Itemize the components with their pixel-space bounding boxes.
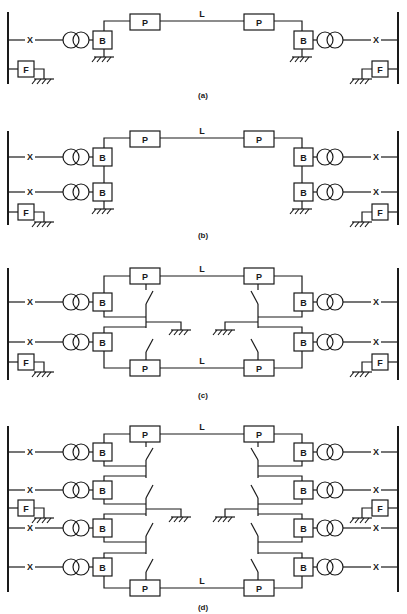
bridge-b: B — [93, 558, 112, 576]
breaker-x: X — [27, 152, 33, 162]
pole-p-label: P — [256, 430, 262, 440]
filter-f-label: F — [23, 358, 29, 368]
breaker-x: X — [373, 523, 379, 533]
bridge-b: B — [93, 183, 112, 201]
breaker-x: X — [27, 187, 33, 197]
line-l: L — [199, 422, 205, 432]
caption-d: (d) — [198, 603, 209, 612]
filter-branch: F — [350, 204, 398, 227]
pole-p: P — [244, 268, 274, 284]
bridge-b: B — [294, 558, 313, 576]
bridge-b: B — [93, 481, 112, 499]
breaker-x: X — [27, 447, 33, 457]
converter-schematic-figure: XBFXBFPLP(a)XBXBFXBXBFPLP(b)XBXBFXBXBFPP… — [0, 0, 407, 614]
two-winding-transformer-icon — [63, 334, 89, 350]
breaker-x: X — [373, 297, 379, 307]
two-winding-transformer-icon — [317, 334, 343, 350]
bridge-b: B — [93, 333, 112, 351]
breaker-x: X — [27, 562, 33, 572]
bridge-b: B — [294, 443, 313, 461]
bridge-b: B — [294, 148, 313, 166]
converter-branch: XB — [8, 481, 112, 499]
filter-branch: F — [350, 354, 398, 377]
bridge-b: B — [93, 519, 112, 537]
breaker-x: X — [373, 152, 379, 162]
two-winding-transformer-icon — [63, 444, 89, 460]
left-station: XBF — [8, 12, 112, 84]
filter-branch: F — [8, 204, 54, 227]
ground-icon — [350, 518, 372, 523]
bridge-b-label: B — [300, 298, 307, 308]
two-winding-transformer-icon — [63, 482, 89, 498]
disconnect-switch-icon — [251, 448, 258, 460]
converter-branch: XB — [8, 443, 112, 461]
bridge-b-label: B — [300, 524, 307, 534]
bridge-b-label: B — [99, 524, 106, 534]
filter-f: F — [372, 354, 388, 370]
line-l: L — [199, 576, 205, 586]
ground-icon — [32, 79, 54, 84]
ground-icon — [350, 372, 372, 377]
bridge-b: B — [294, 519, 313, 537]
bridge-b: B — [93, 443, 112, 461]
filter-f-label: F — [377, 504, 383, 514]
converter-branch: XB — [8, 333, 112, 351]
pole-p: P — [244, 426, 274, 442]
caption-b: (b) — [198, 231, 209, 240]
disconnect-switch-icon — [146, 339, 153, 352]
right-station: XBXBF — [294, 268, 398, 380]
pole-p: P — [130, 14, 160, 30]
breaker-x: X — [373, 337, 379, 347]
converter-branch: XB — [294, 148, 398, 166]
two-winding-transformer-icon — [63, 294, 89, 310]
bridge-b-label: B — [99, 153, 106, 163]
converter-branch: XB — [294, 558, 398, 576]
ground-icon — [92, 57, 114, 62]
pole-p-label: P — [142, 272, 148, 282]
two-winding-transformer-icon — [63, 184, 89, 200]
bridge-b-label: B — [99, 486, 106, 496]
bridge-b: B — [294, 481, 313, 499]
converter-branch: XB — [294, 443, 398, 461]
ground-icon — [169, 330, 191, 335]
filter-f: F — [372, 204, 388, 220]
panel-a: XBFXBFPLP(a) — [8, 9, 398, 100]
pole-p: P — [244, 131, 274, 147]
converter-branch: XB — [294, 519, 398, 537]
disconnect-switch-icon — [146, 485, 153, 498]
pole-p-label: P — [256, 364, 262, 374]
filter-branch: F — [8, 500, 54, 523]
two-winding-transformer-icon — [317, 559, 343, 575]
filter-f-label: F — [23, 65, 29, 75]
bridge-b-label: B — [99, 298, 106, 308]
filter-f: F — [372, 500, 388, 516]
two-winding-transformer-icon — [63, 149, 89, 165]
bridge-b: B — [294, 333, 313, 351]
pole-p-label: P — [142, 135, 148, 145]
disconnect-switch-icon — [251, 559, 258, 572]
disconnect-switch-icon — [146, 448, 153, 460]
bridge-b-label: B — [300, 338, 307, 348]
two-winding-transformer-icon — [317, 444, 343, 460]
breaker-x: X — [27, 485, 33, 495]
ground-icon — [350, 79, 372, 84]
pole-p: P — [244, 360, 274, 376]
two-winding-transformer-icon — [317, 149, 343, 165]
filter-f: F — [372, 61, 388, 77]
bridge-b-label: B — [300, 448, 307, 458]
line-l: L — [199, 356, 205, 366]
pole-p: P — [130, 360, 160, 376]
breaker-x: X — [373, 562, 379, 572]
disconnect-switch-icon — [146, 291, 153, 304]
converter-branch: XB — [8, 558, 112, 576]
two-winding-transformer-icon — [317, 520, 343, 536]
filter-f: F — [18, 61, 34, 77]
bridge-b-label: B — [300, 153, 307, 163]
bridge-b-label: B — [99, 563, 106, 573]
filter-f-label: F — [377, 358, 383, 368]
right-station: XBXBXBXBF — [294, 426, 398, 592]
two-winding-transformer-icon — [317, 294, 343, 310]
line-l: L — [199, 9, 205, 19]
pole-p-label: P — [142, 430, 148, 440]
breaker-x: X — [27, 523, 33, 533]
